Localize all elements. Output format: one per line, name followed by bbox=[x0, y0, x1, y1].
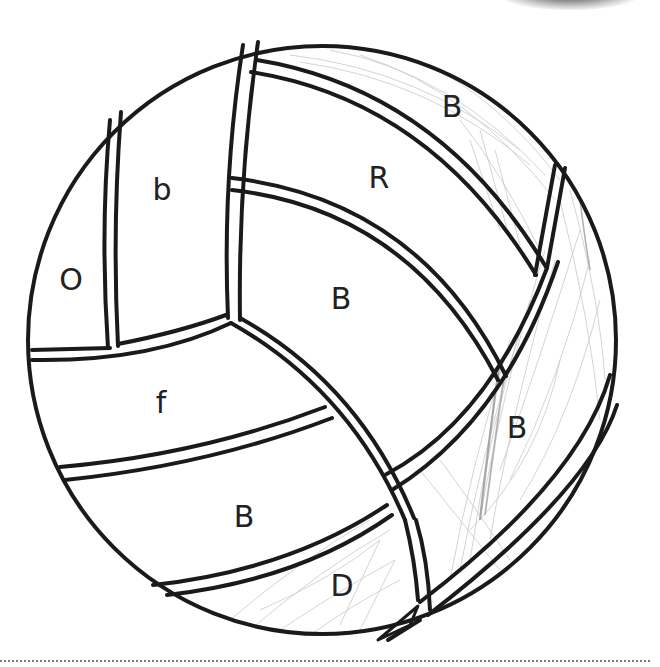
label-left-middle-panel: f bbox=[156, 388, 167, 418]
volleyball-drawing bbox=[0, 0, 660, 667]
cut-line bbox=[0, 660, 650, 662]
label-center-panel: B bbox=[331, 284, 352, 314]
label-left-lower-panel: B bbox=[234, 502, 255, 532]
pencil-shading bbox=[230, 50, 605, 635]
label-left-upper-panel: b bbox=[152, 175, 171, 205]
label-top-band-panel: B bbox=[442, 92, 463, 122]
label-bottom-panel: D bbox=[330, 571, 353, 601]
label-top-right-panel: R bbox=[369, 163, 390, 193]
label-right-band-panel: B bbox=[507, 413, 528, 443]
coloring-page: O b B R B f B B D bbox=[0, 0, 660, 667]
ball-outline-and-seams bbox=[28, 42, 617, 640]
label-far-left-panel: O bbox=[59, 265, 83, 295]
